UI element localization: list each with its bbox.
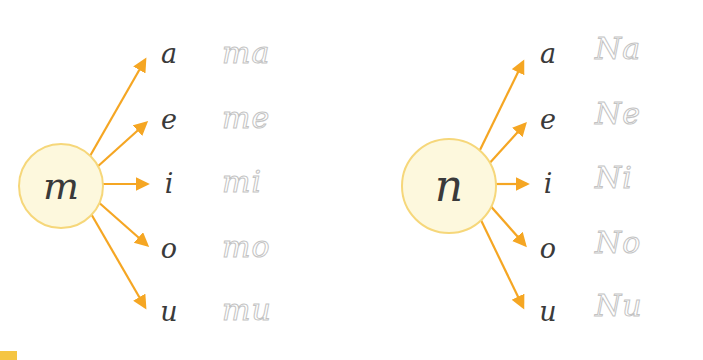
vowel-letter: a [152, 40, 186, 67]
hub-circle-m: m [18, 143, 104, 229]
exercise-group-m: m a e i o u ma me mi mo mu [0, 0, 340, 360]
trace-syllable: Ni [595, 163, 633, 193]
vowel-letter: e [531, 106, 565, 133]
trace-syllable: mu [222, 295, 272, 325]
trace-syllable: Nu [595, 291, 643, 321]
hub-letter-m: m [43, 167, 79, 205]
trace-syllable: ma [222, 38, 270, 68]
vowel-letter: o [531, 235, 565, 262]
exercise-group-n: n a e i o u Na Ne Ni No Nu [355, 0, 695, 360]
vowel-letter: u [531, 298, 565, 325]
vowel-letter: e [152, 106, 186, 133]
trace-syllable: No [595, 228, 641, 258]
trace-syllable: Ne [595, 99, 641, 129]
trace-syllable: mi [222, 167, 262, 197]
vowel-letter: i [531, 170, 565, 197]
vowel-letter: a [531, 40, 565, 67]
vowel-letter: o [152, 235, 186, 262]
trace-syllable: Na [595, 34, 641, 64]
worksheet: m a e i o u ma me mi mo mu [0, 0, 703, 360]
trace-syllable: mo [222, 232, 271, 262]
vowel-letter: i [152, 170, 186, 197]
vowel-letter: u [152, 298, 186, 325]
trace-syllable: me [222, 103, 270, 133]
hub-circle-n: n [401, 138, 497, 234]
corner-color-mark [0, 351, 17, 360]
hub-letter-n: n [435, 164, 463, 208]
